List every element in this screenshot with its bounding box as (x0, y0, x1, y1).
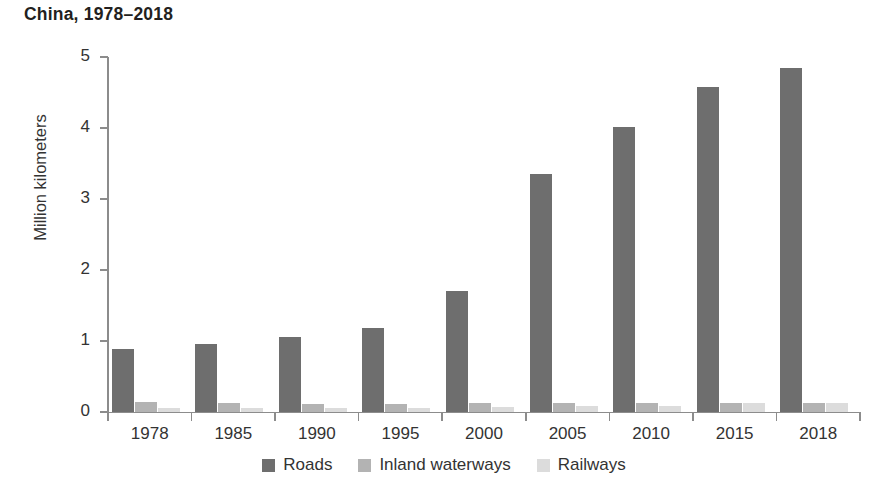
y-axis-tick-label: 4 (44, 117, 90, 137)
bar-roads-2015 (697, 87, 719, 412)
bar-inland-waterways-1995 (385, 404, 407, 412)
legend-item-roads[interactable]: Roads (262, 455, 332, 475)
bar-inland-waterways-2010 (636, 403, 658, 412)
plot-area (108, 57, 860, 412)
y-axis-tick (100, 127, 108, 129)
bar-railways-1995 (408, 408, 430, 412)
x-axis-tick (776, 412, 778, 421)
x-axis-tick-label: 1995 (382, 424, 420, 444)
x-axis-tick-label: 1990 (298, 424, 336, 444)
y-axis-tick (100, 340, 108, 342)
bar-railways-1978 (158, 408, 180, 412)
x-axis-tick (274, 412, 276, 421)
legend-swatch-icon (537, 459, 550, 472)
y-axis-tick-label: 2 (44, 259, 90, 279)
legend-swatch-icon (262, 459, 275, 472)
x-axis-tick (859, 412, 861, 421)
bar-railways-2018 (826, 403, 848, 412)
bar-roads-2005 (530, 174, 552, 412)
bar-railways-2005 (576, 406, 598, 412)
x-axis-tick (191, 412, 193, 421)
bar-railways-2010 (659, 406, 681, 412)
chart-legend: RoadsInland waterwaysRailways (0, 455, 888, 475)
bar-chart: China, 1978–2018 Million kilometers 0123… (0, 0, 888, 496)
y-axis-tick-label: 1 (44, 330, 90, 350)
x-axis-tick-label: 2015 (716, 424, 754, 444)
x-axis-tick (525, 412, 527, 421)
bar-roads-2000 (446, 291, 468, 412)
y-axis-title: Million kilometers (31, 78, 50, 278)
legend-swatch-icon (358, 459, 371, 472)
bar-railways-2015 (743, 403, 765, 412)
bar-roads-1978 (112, 349, 134, 412)
bar-roads-1990 (279, 337, 301, 412)
x-axis-tick (441, 412, 443, 421)
page-title: China, 1978–2018 (24, 4, 173, 25)
y-axis-tick-label: 5 (44, 46, 90, 66)
y-axis-tick (100, 198, 108, 200)
bar-railways-1985 (241, 408, 263, 412)
x-axis-tick (692, 412, 694, 421)
x-axis-tick-label: 1985 (214, 424, 252, 444)
y-axis-tick (100, 56, 108, 58)
legend-label: Inland waterways (379, 455, 510, 475)
x-axis-tick-label: 1978 (131, 424, 169, 444)
bar-inland-waterways-2018 (803, 403, 825, 412)
legend-label: Roads (283, 455, 332, 475)
bar-roads-1985 (195, 344, 217, 412)
bar-inland-waterways-2015 (720, 403, 742, 412)
bar-inland-waterways-1985 (218, 403, 240, 412)
bar-roads-1995 (362, 328, 384, 412)
x-axis-tick-label: 2000 (465, 424, 503, 444)
legend-label: Railways (558, 455, 626, 475)
legend-item-inland-waterways[interactable]: Inland waterways (358, 455, 510, 475)
x-axis-tick (609, 412, 611, 421)
bar-inland-waterways-2005 (553, 403, 575, 412)
bar-roads-2018 (780, 68, 802, 412)
y-axis-tick-label: 0 (44, 401, 90, 421)
bar-inland-waterways-1990 (302, 404, 324, 412)
x-axis-tick-label: 2018 (799, 424, 837, 444)
y-axis-tick-label: 3 (44, 188, 90, 208)
bar-inland-waterways-2000 (469, 403, 491, 412)
y-axis-tick (100, 269, 108, 271)
bar-railways-1990 (325, 408, 347, 412)
x-axis-tick (358, 412, 360, 421)
bar-inland-waterways-1978 (135, 402, 157, 412)
x-axis-tick-label: 2010 (632, 424, 670, 444)
legend-item-railways[interactable]: Railways (537, 455, 626, 475)
bar-railways-2000 (492, 407, 514, 412)
bar-roads-2010 (613, 127, 635, 412)
x-axis-tick (107, 412, 109, 421)
x-axis-tick-label: 2005 (549, 424, 587, 444)
